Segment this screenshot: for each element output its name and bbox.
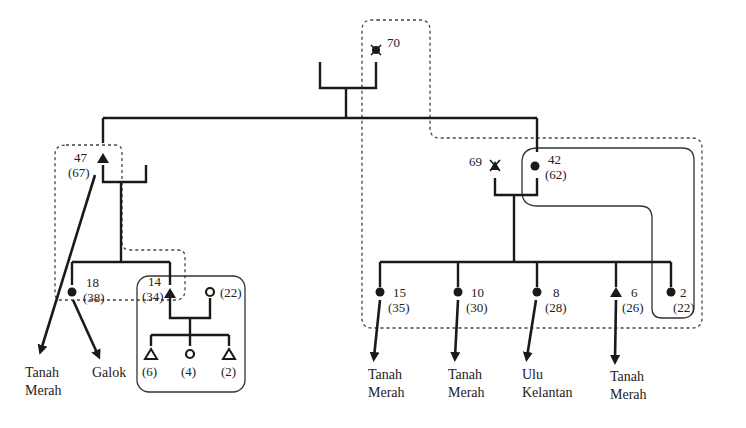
svg-text:Merah: Merah — [368, 385, 405, 400]
destination-6: Tanah Merah — [610, 369, 647, 402]
svg-text:Merah: Merah — [610, 387, 647, 402]
person-47-male-icon — [97, 153, 109, 163]
person-18-age: (38) — [83, 290, 105, 305]
person-15-label: 15 — [393, 285, 406, 300]
person-14-age: (34) — [142, 289, 164, 304]
person-10-label: 10 — [471, 285, 484, 300]
svg-text:Ulu: Ulu — [522, 367, 543, 382]
destination-10: Tanah Merah — [448, 367, 485, 400]
person-47-label: 47 — [74, 150, 88, 165]
destination-18: Galok — [92, 365, 126, 380]
svg-text:Tanah: Tanah — [368, 367, 402, 382]
person-18-female-icon — [68, 288, 77, 297]
person-8-female-icon — [533, 288, 542, 297]
person-70-label: 70 — [387, 35, 400, 50]
svg-text:Tanah: Tanah — [448, 367, 482, 382]
person-47-age: (67) — [68, 165, 90, 180]
person-15-female-icon — [376, 288, 385, 297]
svg-text:Merah: Merah — [448, 385, 485, 400]
person-10-age: (30) — [466, 300, 488, 315]
person-69-deceased-male-icon — [490, 160, 500, 171]
person-6-age: (26) — [622, 300, 644, 315]
person-42-label: 42 — [548, 152, 561, 167]
destination-47: Tanah Merah — [25, 365, 62, 398]
person-70-deceased-female-icon — [371, 45, 381, 55]
destination-15: Tanah Merah — [368, 367, 405, 400]
person-8-label: 8 — [553, 285, 560, 300]
child-6-male-icon — [145, 349, 157, 359]
person-2-female-icon — [667, 288, 676, 297]
child-2-male-icon — [223, 349, 235, 359]
person-2-label: 2 — [680, 285, 687, 300]
person-18-label: 18 — [86, 275, 99, 290]
person-14-label: 14 — [148, 274, 162, 289]
arrow-10-to-tanah-merah — [455, 300, 458, 357]
kinship-diagram: 70 47 (67) 69 42 (62) 18 (38) 14 (34) (2… — [0, 0, 746, 428]
svg-text:Tanah: Tanah — [25, 365, 59, 380]
person-spouse-female-icon — [206, 288, 214, 296]
child-4-age: (4) — [181, 364, 196, 379]
svg-text:Tanah: Tanah — [610, 369, 644, 384]
person-6-male-icon — [610, 287, 622, 297]
svg-text:Merah: Merah — [25, 383, 62, 398]
svg-text:Kelantan: Kelantan — [522, 385, 573, 400]
person-42-age: (62) — [545, 167, 567, 182]
person-8-age: (28) — [545, 300, 567, 315]
person-15-age: (35) — [388, 300, 410, 315]
arrow-6-to-tanah-merah — [615, 300, 616, 360]
person-42-female-icon — [531, 162, 540, 171]
child-2-age: (2) — [221, 364, 236, 379]
child-6-age: (6) — [142, 364, 157, 379]
person-2-age: (22) — [673, 300, 695, 315]
household-group-right-dotted — [362, 20, 702, 328]
arrow-8-to-ulu-kelantan — [527, 300, 536, 357]
person-14-male-icon — [164, 288, 176, 298]
destination-8: Ulu Kelantan — [522, 367, 573, 400]
child-4-female-icon — [186, 350, 194, 358]
migration-arrows — [41, 175, 616, 360]
svg-text:Galok: Galok — [92, 365, 126, 380]
person-spouse-age: (22) — [220, 285, 242, 300]
person-10-female-icon — [454, 288, 463, 297]
person-69-label: 69 — [469, 154, 482, 169]
arrow-18-to-galok — [73, 300, 98, 355]
person-6-label: 6 — [631, 285, 638, 300]
